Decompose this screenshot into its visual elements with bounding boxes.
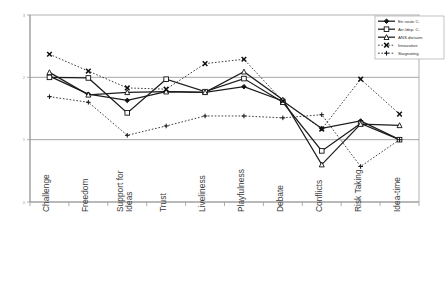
- legend-label-arr-dep-c: Arr./dep. C.: [398, 27, 420, 32]
- data-point-marker: [164, 77, 169, 82]
- data-point-marker: [164, 124, 169, 129]
- data-point-marker: [281, 116, 286, 121]
- data-point-marker: [203, 61, 208, 66]
- data-point-marker: [47, 94, 52, 99]
- series-line-stagnating: [49, 97, 399, 167]
- category-label: Trust: [158, 193, 168, 212]
- line-chart: 0123 ChallengeFreedomSupport forIdeasTru…: [0, 0, 446, 283]
- series-line-innovative: [49, 54, 399, 129]
- series-markers: [47, 52, 402, 169]
- category-label: Challenge: [41, 174, 51, 212]
- chart-legend: En route C.Arr./dep. C.ANS divisionInnov…: [375, 16, 444, 59]
- category-label: Debate: [275, 185, 285, 212]
- data-point-marker: [47, 70, 52, 75]
- y-tick-label: 2: [23, 75, 26, 80]
- y-tick-label: 0: [23, 200, 26, 205]
- data-point-marker: [86, 76, 91, 81]
- gridlines: [30, 77, 419, 139]
- y-axis: 0123: [23, 13, 30, 205]
- data-point-marker: [125, 98, 130, 103]
- y-tick-label: 3: [23, 13, 26, 18]
- data-point-marker: [125, 111, 130, 116]
- category-labels: ChallengeFreedomSupport forIdeasTrustLiv…: [41, 169, 401, 212]
- data-point-marker: [384, 27, 389, 32]
- chart-container: 0123 ChallengeFreedomSupport forIdeasTru…: [0, 0, 446, 283]
- legend-label-innovative: Innovative: [398, 43, 418, 48]
- data-point-marker: [242, 84, 247, 89]
- legend-label-stagnating: Stagnating: [398, 51, 419, 56]
- category-label: Idea-time: [392, 177, 402, 212]
- data-point-marker: [86, 69, 91, 74]
- data-point-marker: [125, 133, 130, 138]
- category-label: Ideas: [124, 192, 134, 213]
- legend-label-ans-division: ANS division: [398, 35, 423, 40]
- data-point-marker: [397, 112, 402, 117]
- series-lines: [49, 54, 399, 166]
- data-point-marker: [319, 149, 324, 154]
- data-point-marker: [242, 114, 247, 119]
- category-label: Conflicts: [314, 180, 324, 212]
- category-label: Freedom: [80, 178, 90, 212]
- data-point-marker: [203, 114, 208, 119]
- data-point-marker: [47, 75, 52, 80]
- category-label: Liveliness: [197, 175, 207, 212]
- data-point-marker: [47, 52, 52, 57]
- data-point-marker: [241, 69, 246, 74]
- category-label: Risk Taking: [353, 169, 363, 212]
- y-tick-label: 1: [23, 137, 26, 142]
- data-point-marker: [397, 123, 402, 128]
- category-label: Playfulness: [236, 169, 246, 212]
- legend-label-en-route-c: En route C.: [398, 19, 420, 24]
- category-label: Support for: [115, 170, 125, 212]
- data-point-marker: [242, 76, 247, 81]
